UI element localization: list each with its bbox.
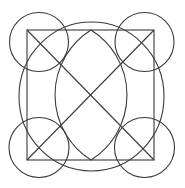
geometric-diagram xyxy=(0,0,185,188)
